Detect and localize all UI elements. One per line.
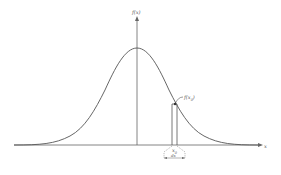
dx-left-arrow-icon (164, 157, 167, 159)
normal-curve-figure: f(x0) f(x) x x0 dx (0, 0, 281, 175)
svg-text:f(x0): f(x0) (183, 94, 195, 102)
y-axis-label: f(x) (131, 9, 141, 16)
point-label-close: ) (192, 94, 195, 100)
x-axis-label: x (264, 143, 267, 149)
dx-label: dx (171, 153, 177, 158)
point-label: f(x (183, 94, 191, 101)
point-marker (174, 103, 176, 105)
bell-curve (14, 48, 258, 145)
dx-right-arrow-icon (182, 157, 185, 159)
x-axis-arrow-icon (258, 143, 263, 147)
y-axis-arrow-icon (135, 16, 139, 21)
